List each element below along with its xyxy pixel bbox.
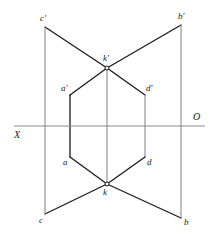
point-label-b-prime: b' bbox=[178, 12, 184, 21]
geometry-figure: c'b'k'a'd'adkcb X O bbox=[0, 0, 215, 242]
line-k-to-d bbox=[107, 157, 145, 184]
point-label-k-prime: k' bbox=[103, 54, 109, 63]
line-k-prime-to-b-prime bbox=[107, 25, 181, 68]
line-a-to-k bbox=[70, 157, 107, 184]
point-label-d: d bbox=[147, 158, 152, 167]
point-label-d-prime: d' bbox=[146, 84, 152, 93]
point-label-a: a bbox=[63, 158, 68, 167]
point-label-k: k bbox=[103, 188, 107, 197]
axis-label-x: X bbox=[14, 130, 20, 140]
point-label-c: c bbox=[39, 216, 43, 225]
line-a-prime-to-k-prime bbox=[70, 68, 107, 95]
axis-label-o: O bbox=[193, 112, 200, 122]
line-c-prime-to-k-prime bbox=[45, 27, 107, 68]
line-k-to-b bbox=[107, 184, 181, 218]
figure-canvas bbox=[0, 0, 215, 242]
point-label-b: b bbox=[184, 218, 189, 227]
segment-layer bbox=[45, 25, 181, 218]
line-k-prime-to-d-prime bbox=[107, 68, 145, 95]
point-label-c-prime: c' bbox=[40, 14, 46, 23]
point-label-a-prime: a' bbox=[61, 84, 67, 93]
line-c-to-k bbox=[45, 184, 107, 214]
vertex-marker-k bbox=[105, 182, 109, 186]
vertex-marker-k-prime bbox=[105, 66, 109, 70]
